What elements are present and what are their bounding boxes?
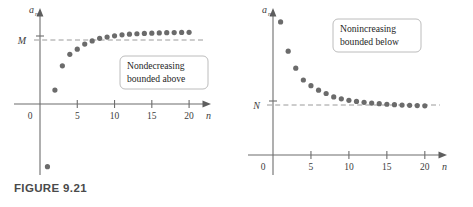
data-point [384, 102, 389, 107]
origin-label-left: 0 [28, 111, 33, 121]
y-axis-label-sub-left: n [35, 10, 38, 17]
x-axis-label-right: n [442, 161, 447, 172]
data-point [415, 103, 420, 108]
origin-label-right: 0 [261, 162, 266, 172]
y-axis-label-right: a [262, 4, 267, 15]
x-tick-label: 20 [420, 162, 430, 172]
x-axis-arrowhead-right [439, 152, 448, 159]
data-point [127, 32, 132, 37]
bound-label-n: N [252, 100, 261, 111]
data-point [301, 77, 306, 82]
x-tick-label: 15 [147, 111, 157, 121]
data-point [142, 31, 147, 36]
figure-9-21: a n n 0 5101520 M Nondecreasing bounded … [0, 0, 473, 207]
data-point [119, 32, 124, 37]
chart-nondecreasing-bounded-above: a n n 0 5101520 M Nondecreasing bounded … [0, 0, 240, 185]
data-point [346, 98, 351, 103]
data-point [67, 52, 72, 57]
annotation-nondecreasing: Nondecreasing bounded above [120, 56, 208, 89]
annotation-nonincreasing: Nonincreasing bounded below [333, 19, 421, 52]
data-point [60, 63, 65, 68]
x-ticks-right: 5101520 [309, 151, 430, 172]
y-axis-label-sub-right: n [268, 10, 271, 17]
data-point [164, 30, 169, 35]
data-point [324, 91, 329, 96]
data-point [172, 30, 177, 35]
annotation-line1-right: Nonincreasing [340, 23, 396, 34]
annotation-line2-left: bounded above [127, 73, 185, 84]
chart-canvas-right: a n n 0 5101520 N Nonincreasing bounded … [240, 0, 473, 185]
data-point [308, 83, 313, 88]
data-point [286, 49, 291, 54]
data-point [97, 36, 102, 41]
y-axis-label-left: a [29, 4, 34, 15]
data-point [45, 164, 50, 169]
data-point [407, 103, 412, 108]
data-point [354, 99, 359, 104]
data-point [278, 19, 283, 24]
figure-caption: FIGURE 9.21 [14, 182, 87, 194]
data-points-left [45, 30, 192, 170]
data-point [157, 30, 162, 35]
data-point [377, 101, 382, 106]
data-point [186, 30, 191, 35]
data-point [82, 42, 87, 47]
annotation-line2-right: bounded below [340, 36, 399, 47]
bound-label-m: M [17, 35, 27, 46]
x-tick-label: 20 [184, 111, 194, 121]
annotation-line1-left: Nondecreasing [127, 60, 185, 71]
data-point [392, 102, 397, 107]
x-tick-label: 15 [382, 162, 392, 172]
data-point [293, 66, 298, 71]
data-point [75, 47, 80, 52]
data-point [149, 31, 154, 36]
x-axis-arrowhead-left [203, 101, 212, 108]
data-point [316, 88, 321, 93]
data-point [104, 34, 109, 39]
chart-canvas-left: a n n 0 5101520 M Nondecreasing bounded … [0, 0, 240, 185]
x-ticks-left: 5101520 [75, 100, 194, 121]
x-tick-label: 10 [344, 162, 354, 172]
data-point [90, 38, 95, 43]
data-point [422, 103, 427, 108]
data-point [52, 87, 57, 92]
data-point [134, 31, 139, 36]
chart-nonincreasing-bounded-below: a n n 0 5101520 N Nonincreasing bounded … [240, 0, 473, 185]
data-point [331, 94, 336, 99]
data-point [369, 101, 374, 106]
x-tick-label: 5 [75, 111, 80, 121]
data-point [179, 30, 184, 35]
data-point [112, 33, 117, 38]
data-point [361, 100, 366, 105]
data-point [399, 102, 404, 107]
data-point [339, 96, 344, 101]
x-axis-label-left: n [206, 110, 211, 121]
x-tick-label: 5 [309, 162, 314, 172]
x-tick-label: 10 [110, 111, 120, 121]
